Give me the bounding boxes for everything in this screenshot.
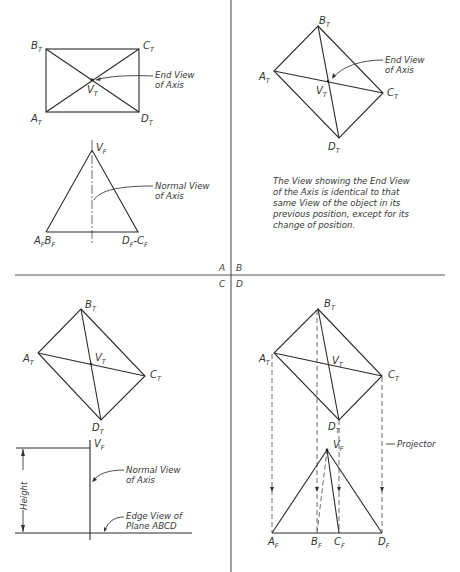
vertex-point [91,79,94,82]
arrowhead [380,487,384,492]
panel-c: BT AT CT DT VT VF Height Normal Viewof A… [15,299,192,540]
label-c-top: CT [388,369,400,383]
label-b-top: BT [324,298,336,312]
label-d-top: DT [141,113,154,127]
label-a-top: AT [22,353,35,367]
label-v-front: VF [333,439,344,453]
leader-normal-view [93,470,124,481]
label-d-front: DF [378,536,390,550]
explanatory-note: The View showing the End View of the Axi… [272,176,412,230]
quadrant-label-d: D [236,279,243,289]
diagonal-ac [274,353,382,376]
label-b-top: BT [319,15,331,29]
label-a-top: AT [258,353,271,367]
arrowhead [337,487,341,492]
leader-end-view [333,60,383,78]
vertex-point [327,80,330,83]
panel-d: BT AT CT DT VT VF AF BF CF DF Projector [258,298,436,550]
callout-end-view: End Viewof Axis [385,55,426,75]
callout-projector: Projector [397,439,436,449]
label-a-front: AF [267,536,279,550]
apex-point [326,449,329,452]
label-c-top: CT [387,87,399,101]
panel-b: BT AT CT DT VT End Viewof Axis The View … [258,15,426,230]
label-v-top: VT [95,352,107,366]
arrowhead [270,487,274,492]
vertex-point [90,363,93,366]
height-dimension-label: Height [19,481,29,510]
pyramid-projection-diagram: A B C D BT CT AT DT VT End Viewof Axis V… [0,0,460,572]
label-v-front: VF [96,142,107,156]
label-a-top: AT [258,71,271,85]
callout-edge-view: Edge View ofPlane ABCD [126,511,184,531]
label-b-front: BF [311,536,322,550]
callout-end-view: End Viewof Axis [155,70,196,90]
label-c-front: CF [334,536,345,550]
label-a-top: AT [30,113,43,127]
edge-vc [327,450,339,533]
leader-edge-view [105,517,124,530]
label-v-front: VF [94,438,105,452]
label-v-top: VT [316,85,328,99]
edge-vd [327,450,382,533]
label-c-top: CT [143,40,155,54]
label-d-top: DT [328,141,341,155]
leader-end-view [96,76,153,80]
label-v-top: VT [87,84,99,98]
callout-normal-view: Normal Viewof Axis [126,465,182,485]
arrowhead [332,73,336,79]
label-ab-front: AFBF [33,235,55,249]
label-c-top: CT [150,369,162,383]
callout-normal-view: Normal Viewof Axis [155,181,211,201]
label-d-top: DT [92,422,105,436]
leader-normal-view [94,186,153,200]
label-b-top: BT [31,40,43,54]
arrowhead-up [21,449,25,456]
arrowhead [315,487,319,492]
quadrant-label-a: A [218,263,225,273]
quadrant-label-b: B [236,263,242,273]
label-dc-front: DF-CF [122,235,148,249]
quadrant-label-c: C [219,279,226,289]
panel-a: BT CT AT DT VT End Viewof Axis VF AFBF D… [30,40,211,249]
arrowhead-down [21,525,25,532]
label-v-top: VT [332,355,344,369]
label-b-top: BT [85,299,97,313]
